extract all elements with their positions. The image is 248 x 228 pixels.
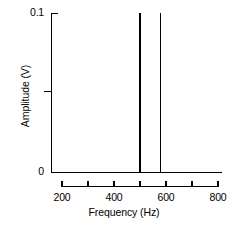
- spectrum-chart: 0.1 0 Amplitude (V) 200400600800 Frequen…: [0, 0, 248, 228]
- x-axis-tick: [191, 181, 192, 187]
- y-axis-tick-label-max: 0.1: [14, 7, 44, 18]
- x-axis-tick-label: 800: [198, 191, 238, 203]
- x-axis-tick: [139, 181, 140, 187]
- x-axis-tick-label: 600: [146, 191, 186, 203]
- y-axis-tick-label-min: 0: [14, 166, 44, 177]
- x-axis-tick: [165, 181, 166, 187]
- spectral-spike: [160, 13, 161, 172]
- y-axis-title: Amplitude (V): [19, 31, 31, 161]
- x-axis-tick: [217, 181, 218, 187]
- plot-baseline: [51, 172, 222, 173]
- y-axis-line: [51, 13, 52, 173]
- x-axis-tick-label: 200: [42, 191, 82, 203]
- x-axis-tick: [113, 181, 114, 187]
- x-axis-tick: [87, 181, 88, 187]
- y-axis-tick-mid: [44, 91, 52, 92]
- x-axis-title: Frequency (Hz): [0, 206, 248, 218]
- x-axis-tick: [61, 181, 62, 187]
- spectral-spike: [139, 13, 140, 172]
- x-axis-tick-label: 400: [94, 191, 134, 203]
- y-axis-tick-top: [51, 13, 58, 14]
